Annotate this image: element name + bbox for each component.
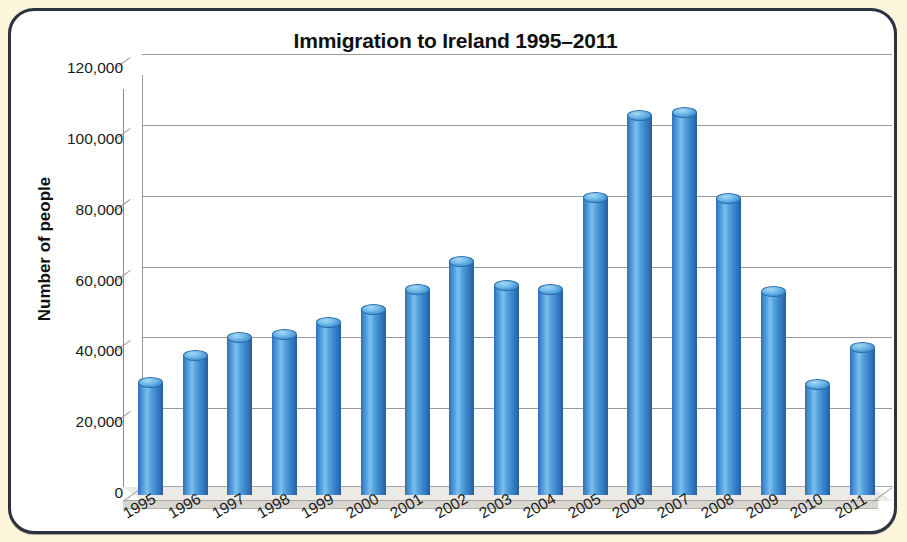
chart-page: Immigration to Ireland 1995–2011 Number … (0, 0, 907, 542)
x-tick-label: 2008 (698, 490, 737, 523)
x-tick-label: 1998 (254, 490, 293, 523)
x-tick-label: 2002 (432, 490, 471, 523)
chart-frame: Immigration to Ireland 1995–2011 Number … (8, 8, 897, 534)
x-tick-label: 1995 (120, 490, 159, 523)
x-tick-label: 2004 (520, 490, 559, 523)
x-tick-label: 1997 (209, 490, 248, 523)
x-axis-tick-labels: 1995199619971998199920002001200220032004… (11, 11, 897, 534)
x-tick-label: 2003 (476, 490, 515, 523)
x-tick-label: 2007 (654, 490, 693, 523)
x-tick-label: 1999 (298, 490, 337, 523)
x-tick-label: 2001 (387, 490, 426, 523)
x-tick-label: 2005 (565, 490, 604, 523)
x-tick-label: 2000 (343, 490, 382, 523)
plot-area: 120,000100,00080,00060,00040,00020,0000 … (11, 11, 897, 534)
x-tick-label: 2009 (743, 490, 782, 523)
x-tick-label: 1996 (165, 490, 204, 523)
x-tick-label: 2010 (787, 490, 826, 523)
x-tick-label: 2011 (832, 490, 870, 522)
x-tick-label: 2006 (609, 490, 648, 523)
